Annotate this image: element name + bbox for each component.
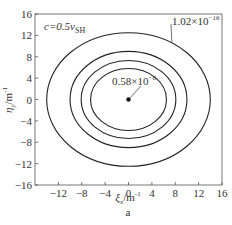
x-tick-label: 8 [173, 187, 179, 199]
y-tick-label: −8 [20, 136, 32, 148]
center-contour-label: 0.58×10−8 [112, 74, 156, 87]
outer-contour-label: 1.02×10−16 [172, 14, 220, 27]
y-tick-label: 16 [21, 8, 33, 20]
y-tick-label: 8 [27, 51, 33, 63]
x-axis-label: ξx/m-1 [115, 190, 141, 206]
y-tick-label: 0 [27, 94, 33, 106]
y-tick-label: 4 [27, 72, 33, 84]
center-label-leader [130, 86, 142, 99]
y-axis-ticks: 1612840−4−8−12−16 [15, 8, 38, 191]
y-axis-label: ηy/m-1 [1, 86, 17, 113]
y-tick-label: −16 [15, 179, 33, 191]
x-tick-label: −4 [99, 187, 111, 199]
contour-chart: 1.02×10−16 0.58×10−8 c=0.5vSH −12−8−4048… [0, 0, 232, 225]
x-tick-label: −8 [76, 187, 88, 199]
figure-caption: a [126, 206, 131, 218]
y-tick-label: 12 [21, 29, 32, 41]
y-tick-label: −4 [20, 115, 32, 127]
x-tick-label: 12 [193, 187, 204, 199]
x-tick-label: 16 [217, 187, 229, 199]
y-tick-label: −12 [15, 158, 32, 170]
x-tick-label: −12 [50, 187, 67, 199]
speed-annotation: c=0.5vSH [44, 20, 85, 35]
x-tick-label: 4 [149, 187, 155, 199]
